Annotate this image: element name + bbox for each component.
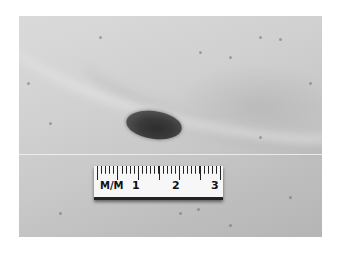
skin-speck [59,212,62,215]
skin-speck [49,122,52,125]
measurement-ruler: M/M 1 2 3 [94,166,223,200]
skin-speck [289,196,292,199]
skin-photograph: M/M 1 2 3 [19,16,322,237]
ruler-mark-3: 3 [211,180,219,192]
ruler-cm-ticks [97,166,221,180]
skin-speck [197,208,200,211]
scan-line [19,154,322,155]
skin-speck [99,36,102,39]
skin-speck [279,38,282,41]
skin-speck [259,136,262,139]
skin-speck [259,36,262,39]
skin-speck [229,56,232,59]
skin-speck [179,212,182,215]
skin-speck [309,82,312,85]
skin-speck [229,224,232,227]
skin-speck [199,51,202,54]
ruler-unit-label: M/M [100,180,124,192]
ruler-mark-1: 1 [132,180,140,192]
ruler-mark-2: 2 [172,180,180,192]
skin-speck [27,82,30,85]
